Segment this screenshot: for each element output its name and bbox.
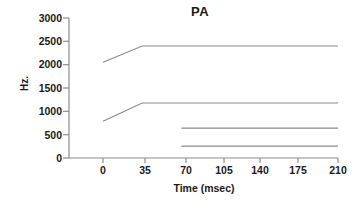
x-axis xyxy=(69,158,338,163)
y-axis xyxy=(63,18,69,158)
series-line-f3 xyxy=(103,46,338,62)
data-series-group xyxy=(103,46,338,146)
series-line-f2 xyxy=(103,103,338,121)
plot-area xyxy=(0,0,364,217)
chart-container: PA Hz. Time (msec) 3000 2500 2000 1500 1… xyxy=(0,0,364,217)
